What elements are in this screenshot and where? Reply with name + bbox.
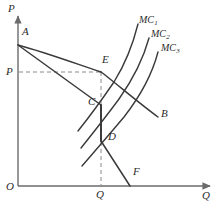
price-tick-label: P: [6, 66, 13, 77]
point-label-b: B: [161, 108, 168, 119]
mc2-curve-label: MC2: [151, 29, 170, 39]
marginal-revenue-lower-segment: [101, 141, 130, 186]
kinked-demand-curve-figure: P Q O P Q A E C D B F MC1 MC2 MC3: [0, 0, 219, 209]
mc1-label-text: MC: [139, 14, 154, 25]
quantity-tick-label: Q: [96, 189, 104, 200]
point-label-d: D: [108, 131, 116, 142]
mc3-label-text: MC: [161, 42, 176, 53]
x-axis-label: Q: [202, 190, 210, 201]
y-axis-label: P: [8, 3, 15, 14]
mc3-curve-label: MC3: [161, 43, 180, 53]
mc2-label-subscript: 2: [166, 33, 170, 41]
demand-curve-upper-segment: [18, 45, 101, 72]
mc2-label-text: MC: [151, 28, 166, 39]
mc1-curve-label: MC1: [139, 15, 158, 25]
point-label-e: E: [102, 54, 109, 65]
diagram-canvas: [0, 0, 219, 209]
origin-label: O: [6, 181, 14, 192]
point-label-a: A: [22, 26, 29, 37]
point-label-c: C: [88, 96, 95, 107]
mc1-label-subscript: 1: [154, 19, 158, 27]
mc3-label-subscript: 3: [176, 47, 180, 55]
point-label-f: F: [133, 166, 140, 177]
